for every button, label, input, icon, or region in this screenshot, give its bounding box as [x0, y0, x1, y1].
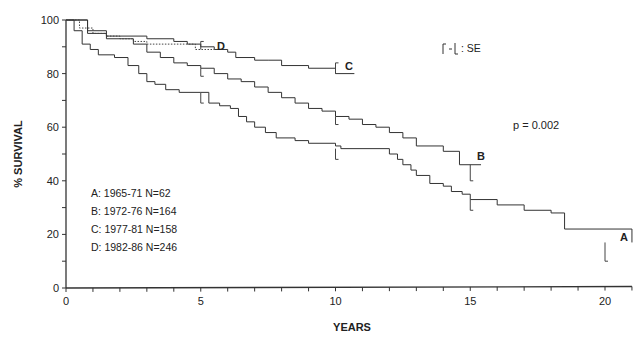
- curve-label-c: C: [345, 60, 353, 72]
- legend-item-a: A: 1965-71 N=62: [91, 187, 171, 199]
- legend: A: 1965-71 N=62 B: 1972-76 N=164 C: 1977…: [91, 187, 177, 253]
- se-key-label: : SE: [461, 42, 481, 54]
- se-mark: [470, 165, 473, 181]
- legend-item-c: C: 1977-81 N=158: [91, 223, 177, 235]
- y-tick-label: 80: [47, 68, 59, 80]
- y-tick-label: 0: [53, 282, 59, 294]
- se-bracket-icon: [443, 43, 458, 54]
- axes: 02040608010005101520: [41, 14, 632, 307]
- curve-label-d: D: [217, 40, 225, 52]
- standard-error-marks: [201, 41, 608, 261]
- se-mark: [201, 68, 204, 76]
- y-tick-label: 40: [47, 175, 59, 187]
- x-tick-label: 10: [329, 295, 341, 307]
- se-mark: [201, 41, 204, 49]
- survival-chart: 02040608010005101520 % SURVIVAL YEARS A:…: [0, 0, 643, 339]
- se-mark: [336, 149, 339, 160]
- se-mark: [201, 92, 204, 103]
- x-axis-line: [66, 287, 632, 289]
- x-tick-label: 0: [63, 295, 69, 307]
- x-tick-label: 20: [599, 295, 611, 307]
- curve-c: [66, 20, 354, 74]
- curve-b: [66, 20, 481, 165]
- se-key: : SE: [443, 42, 481, 54]
- y-tick-label: 60: [47, 121, 59, 133]
- legend-item-d: D: 1982-86 N=246: [91, 241, 177, 253]
- curve-label-b: B: [477, 150, 485, 162]
- p-value: p = 0.002: [513, 119, 559, 131]
- curve-d: [66, 20, 214, 49]
- se-mark: [470, 200, 473, 211]
- se-mark: [605, 242, 608, 261]
- y-axis-label: % SURVIVAL: [12, 120, 24, 188]
- x-axis-label: YEARS: [333, 321, 371, 333]
- se-mark: [336, 116, 339, 124]
- y-tick-label: 100: [41, 14, 59, 26]
- curve-label-a: A: [620, 231, 628, 243]
- x-tick-label: 15: [464, 295, 476, 307]
- legend-item-b: B: 1972-76 N=164: [91, 205, 177, 217]
- x-tick-label: 5: [198, 295, 204, 307]
- y-tick-label: 20: [47, 228, 59, 240]
- se-mark: [336, 63, 339, 74]
